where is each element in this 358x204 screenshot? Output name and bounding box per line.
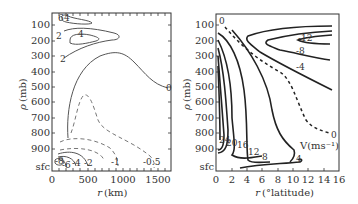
- y-tick-label: 700: [31, 112, 50, 123]
- x-tick-label: 500: [78, 174, 97, 185]
- y-tick-label: sfc: [36, 161, 51, 172]
- x-tick-label: 6: [259, 174, 265, 185]
- svg-text:-8: -8: [296, 46, 305, 56]
- svg-text:-4: -4: [72, 158, 81, 168]
- svg-text:(mb): (mb): [17, 78, 28, 102]
- right-y-axis: 100 200 300 400 500 600 700 800 900 sfc: [195, 19, 219, 172]
- y-tick-label: 300: [195, 50, 214, 61]
- svg-text:-4: -4: [296, 62, 305, 72]
- svg-text:-2: -2: [84, 158, 93, 168]
- svg-text:4: 4: [78, 29, 84, 39]
- y-tick-label: 700: [195, 112, 214, 123]
- svg-text:0: 0: [166, 83, 172, 93]
- y-tick-label: 500: [195, 81, 214, 92]
- svg-text:4: 4: [64, 13, 70, 23]
- x-tick-label: 4: [244, 174, 250, 185]
- left-panel: 100 200 300 400 500 600 700 800 900 sfc: [17, 13, 172, 198]
- y-tick-label: 500: [31, 81, 50, 92]
- svg-text:20: 20: [226, 138, 238, 148]
- left-y-axis-label: ρ (mb): [17, 78, 28, 111]
- svg-text:4: 4: [296, 154, 302, 164]
- x-tick-label: 8: [275, 174, 281, 185]
- y-tick-label: 800: [195, 127, 214, 138]
- x-tick-label: 1500: [145, 174, 170, 185]
- y-tick-label: 200: [31, 35, 50, 46]
- svg-text:8: 8: [262, 152, 268, 162]
- x-axis-label-var: r: [255, 187, 261, 198]
- y-tick-label: 100: [195, 19, 214, 30]
- figure: 100 200 300 400 500 600 700 800 900 sfc: [0, 0, 358, 204]
- x-tick-label: 2: [229, 174, 235, 185]
- right-x-axis: 0 2 4 6 8 10 12 14 16 r (°latitude): [213, 168, 346, 198]
- y-tick-label: 400: [195, 66, 214, 77]
- svg-text:-8: -8: [55, 156, 64, 166]
- x-axis-label-var: r: [97, 187, 103, 198]
- y-tick-label: 900: [31, 143, 50, 154]
- x-tick-label: 1000: [110, 174, 135, 185]
- svg-text:0: 0: [331, 130, 337, 140]
- y-tick-label: 600: [31, 96, 50, 107]
- y-tick-label: sfc: [200, 161, 215, 172]
- y-tick-label: 200: [195, 35, 214, 46]
- x-tick-label: 0: [49, 174, 55, 185]
- svg-text:ρ: ρ: [17, 104, 28, 111]
- right-panel: 100 200 300 400 500 600 700 800 900 sfc …: [181, 14, 345, 198]
- left-plot-frame: [52, 13, 171, 171]
- svg-text:0: 0: [219, 16, 225, 26]
- svg-text:12: 12: [248, 147, 259, 157]
- x-tick-label: 10: [287, 174, 300, 185]
- right-y-axis-label: ρ (mb): [181, 78, 192, 111]
- svg-text:2: 2: [56, 31, 62, 41]
- svg-text:16: 16: [237, 140, 249, 150]
- x-tick-label: 16: [333, 174, 346, 185]
- y-tick-label: 600: [195, 96, 214, 107]
- svg-text:2: 2: [60, 54, 66, 64]
- y-tick-label: 900: [195, 143, 214, 154]
- y-tick-label: 100: [31, 19, 50, 30]
- x-tick-label: 12: [302, 174, 315, 185]
- svg-text:(mb): (mb): [181, 78, 192, 102]
- x-axis-label-unit: (°latitude): [262, 187, 314, 198]
- y-tick-label: 300: [31, 50, 50, 61]
- svg-text:ρ: ρ: [181, 104, 192, 111]
- svg-text:-0.5: -0.5: [143, 157, 161, 167]
- x-tick-label: 14: [318, 174, 331, 185]
- svg-text:-12: -12: [298, 33, 313, 43]
- y-tick-label: 400: [31, 66, 50, 77]
- x-tick-label: 0: [213, 174, 219, 185]
- svg-text:-1: -1: [111, 157, 120, 167]
- x-axis-label-unit: (km): [104, 187, 127, 198]
- y-tick-label: 800: [31, 127, 50, 138]
- left-contours: [55, 15, 168, 168]
- units-annotation: V(ms⁻¹): [299, 140, 339, 151]
- left-x-axis: 0 500 1000 1500 r (km): [49, 168, 171, 198]
